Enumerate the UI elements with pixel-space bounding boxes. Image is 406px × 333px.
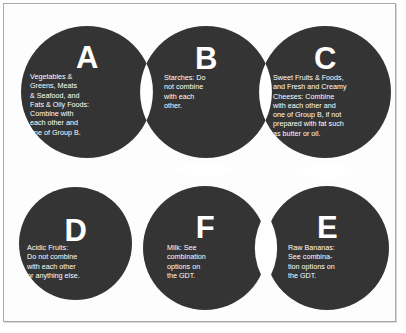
lens-b-f [176,163,236,178]
group-description-d: Acidic Fruits: Do not combine with each … [27,243,135,280]
group-circle-a[interactable]: A Vegetables & Greens, Meats & Seafood, … [21,26,153,158]
group-circle-d[interactable]: D Acidic Fruits: Do not combine with eac… [19,187,132,300]
group-description-b: Starches: Do not combine with each other… [164,73,234,110]
group-circle-c[interactable]: C Sweet Fruits & Foods, and Fresh and Cr… [259,26,391,158]
group-description-c: Sweet Fruits & Foods, and Fresh and Crea… [273,73,393,138]
group-circle-e[interactable]: E Raw Bananas: See combina- tion options… [265,186,389,310]
lens-c-e [298,164,357,178]
group-description-f: Milk: See combination options on the GDT… [167,243,241,280]
group-description-e: Raw Bananas: See combina- tion options o… [288,243,374,280]
group-description-a: Vegetables & Greens, Meats & Seafood, an… [30,72,154,137]
group-letter-e: E [265,212,389,243]
group-circle-f[interactable]: F Milk: See combination options on the G… [143,186,267,310]
group-letter-b: B [140,43,272,74]
group-letter-a: A [21,42,153,73]
group-letter-d: D [19,215,132,246]
group-circle-b[interactable]: B Starches: Do not combine with each oth… [140,26,272,158]
group-letter-f: F [143,212,267,243]
group-letter-c: C [259,43,391,74]
diagram-page: A Vegetables & Greens, Meats & Seafood, … [0,0,406,333]
